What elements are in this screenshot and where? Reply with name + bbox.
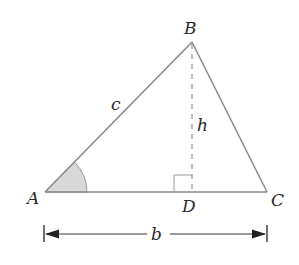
triangle-diagram: B A C D c h b (0, 0, 299, 265)
vertex-label-c: C (271, 190, 284, 210)
angle-a-marker (45, 162, 87, 192)
dimension-label-b: b (151, 224, 162, 244)
side-label-c: c (111, 94, 121, 114)
right-angle-marker (174, 175, 192, 192)
vertex-label-b: B (183, 18, 197, 38)
side-label-h: h (197, 115, 208, 135)
arrowhead-right-icon (252, 230, 266, 239)
vertex-label-d: D (181, 196, 196, 216)
side-c-ab (45, 42, 192, 192)
vertex-label-a: A (25, 188, 39, 208)
arrowhead-left-icon (45, 230, 59, 239)
